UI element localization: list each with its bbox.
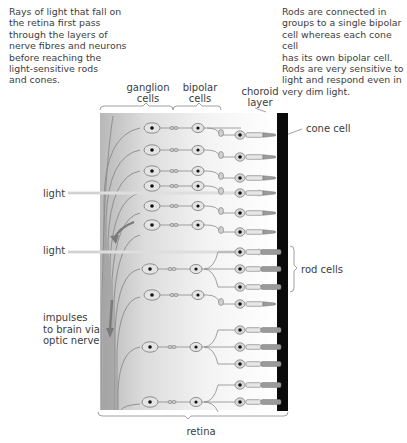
rod-cells-bracket: [290, 246, 297, 292]
retina-diagram: [0, 0, 407, 443]
retina-bracket: [98, 412, 288, 419]
